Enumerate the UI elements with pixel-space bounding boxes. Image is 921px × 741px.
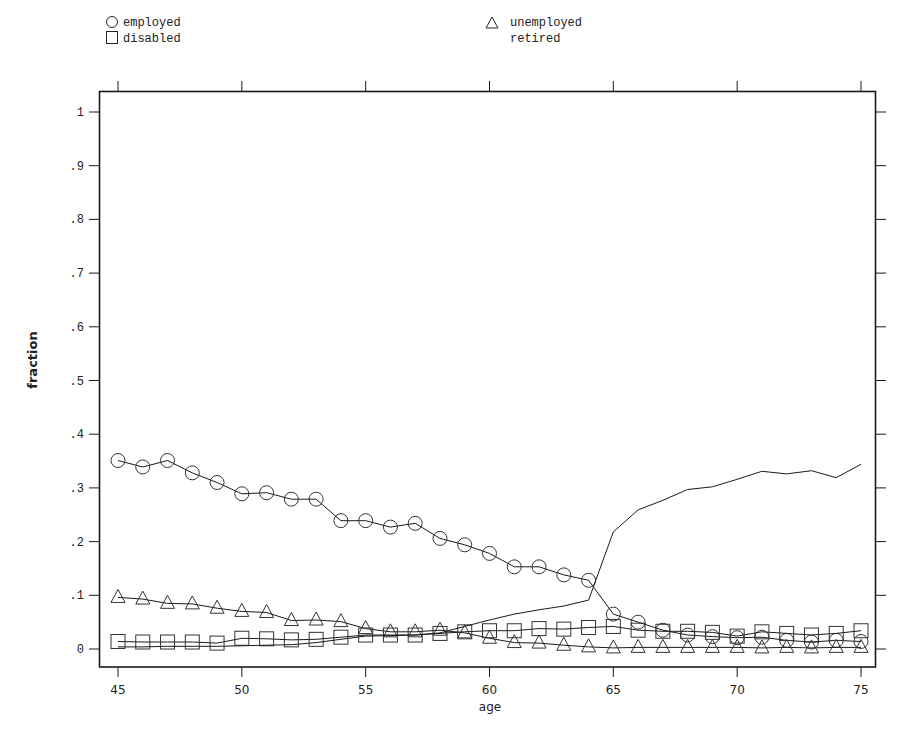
triangle-marker-icon: [507, 635, 521, 648]
y-tick-label: .3: [70, 482, 84, 496]
series-layer: [111, 454, 868, 653]
legend-item-disabled: disabled: [107, 32, 181, 47]
legend-item-employed: employed: [107, 16, 181, 30]
x-tick-label: 75: [853, 683, 868, 697]
triangle-marker-icon: [557, 637, 571, 650]
triangle-marker-icon: [136, 591, 150, 604]
y-tick-label: .9: [70, 160, 84, 174]
x-axis-label: age: [479, 700, 501, 714]
legend-label-employed: employed: [123, 16, 181, 30]
triangle-marker-icon: [210, 600, 224, 613]
triangle-marker-icon: [185, 596, 199, 609]
y-tick-label: .1: [70, 589, 84, 603]
series-disabled: [111, 619, 868, 650]
triangle-marker-icon: [606, 640, 620, 653]
y-tick-label: 1: [77, 106, 84, 120]
plot-frame: [100, 92, 876, 668]
x-tick-label: 65: [606, 683, 621, 697]
x-tick-label: 70: [730, 683, 745, 697]
y-tick-label: .7: [70, 267, 84, 281]
triangle-marker-icon: [334, 614, 348, 627]
series-line-disabled: [118, 626, 861, 643]
x-axis: 45505560657075: [110, 81, 868, 697]
legend-label-unemployed: unemployed: [510, 16, 582, 30]
series-line-retired: [118, 464, 861, 647]
line-chart: employed disabled unemployed retired 455…: [0, 0, 921, 741]
x-tick-label: 50: [234, 683, 249, 697]
y-tick-label: .8: [70, 213, 84, 227]
legend-item-unemployed: unemployed: [486, 16, 582, 30]
triangle-marker-icon: [260, 604, 274, 617]
legend-label-retired: retired: [510, 32, 560, 46]
triangle-marker-icon: [486, 17, 498, 28]
y-tick-label: .4: [70, 428, 84, 442]
y-tick-label: 0: [77, 643, 84, 657]
triangle-marker-icon: [656, 639, 670, 652]
series-retired: [118, 464, 861, 647]
triangle-marker-icon: [309, 612, 323, 625]
triangle-marker-icon: [111, 589, 125, 602]
legend-item-retired: retired: [510, 32, 560, 46]
legend: employed disabled unemployed retired: [107, 16, 583, 46]
x-tick-label: 55: [358, 683, 373, 697]
y-axis-label: fraction: [25, 331, 40, 388]
triangle-marker-icon: [235, 603, 249, 616]
triangle-marker-icon: [631, 639, 645, 652]
y-tick-label: .2: [70, 536, 84, 550]
circle-marker-icon: [107, 17, 118, 28]
triangle-marker-icon: [161, 595, 175, 608]
y-axis: 0.1.2.3.4.5.6.7.8.91: [70, 106, 886, 657]
square-marker-icon: [107, 32, 118, 44]
x-tick-label: 60: [482, 683, 497, 697]
triangle-marker-icon: [681, 639, 695, 652]
y-tick-label: .6: [70, 321, 84, 335]
triangle-marker-icon: [582, 639, 596, 652]
x-tick-label: 45: [110, 683, 125, 697]
triangle-marker-icon: [532, 635, 546, 648]
y-tick-label: .5: [70, 375, 84, 389]
series-line-employed: [118, 461, 861, 643]
legend-label-disabled: disabled: [123, 32, 181, 46]
triangle-marker-icon: [730, 639, 744, 652]
